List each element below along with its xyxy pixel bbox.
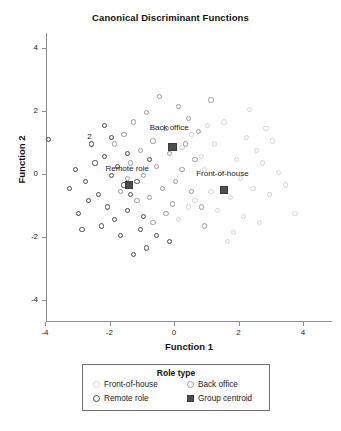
x-tick-mark bbox=[239, 322, 240, 326]
x-tick-mark bbox=[303, 322, 304, 326]
x-tick-label: -2 bbox=[102, 328, 118, 337]
x-tick-label: -4 bbox=[37, 328, 53, 337]
legend-item-label: Back office bbox=[198, 380, 238, 389]
open-circle-icon bbox=[93, 381, 100, 388]
plot-frame bbox=[46, 33, 332, 322]
legend-item-front-of-house: Front-of-house bbox=[93, 380, 158, 389]
open-circle-icon bbox=[187, 381, 194, 388]
y-tick-mark bbox=[42, 174, 46, 175]
x-tick-label: 4 bbox=[295, 328, 311, 337]
x-tick-mark bbox=[45, 322, 46, 326]
x-tick-label: 2 bbox=[231, 328, 247, 337]
legend-item-label: Front-of-house bbox=[104, 380, 158, 389]
x-tick-mark bbox=[174, 322, 175, 326]
y-tick-mark bbox=[42, 48, 46, 49]
y-tick-label: -2 bbox=[24, 232, 38, 241]
y-tick-label: 0 bbox=[24, 169, 38, 178]
legend: Role type Front-of-houseBack officeRemot… bbox=[82, 364, 270, 411]
y-tick-mark bbox=[42, 300, 46, 301]
y-tick-label: 2 bbox=[24, 106, 38, 115]
y-tick-label: -4 bbox=[24, 295, 38, 304]
x-tick-label: 0 bbox=[166, 328, 182, 337]
legend-item-remote-role: Remote role bbox=[93, 394, 149, 403]
x-axis-label: Function 1 bbox=[46, 341, 332, 352]
legend-item-back-office: Back office bbox=[187, 380, 238, 389]
y-tick-label: 4 bbox=[24, 43, 38, 52]
y-tick-mark bbox=[42, 111, 46, 112]
filled-square-icon bbox=[187, 395, 194, 402]
legend-title: Role type bbox=[83, 368, 269, 378]
y-axis-label: Function 2 bbox=[16, 120, 27, 200]
legend-item-label: Remote role bbox=[104, 394, 149, 403]
y-tick-mark bbox=[42, 237, 46, 238]
chart-root: Canonical Discriminant Functions Functio… bbox=[0, 0, 341, 431]
legend-item-label: Group centroid bbox=[198, 394, 252, 403]
x-tick-mark bbox=[110, 322, 111, 326]
legend-item-group-centroid: Group centroid bbox=[187, 394, 252, 403]
open-circle-icon bbox=[93, 395, 100, 402]
chart-title: Canonical Discriminant Functions bbox=[0, 12, 341, 23]
